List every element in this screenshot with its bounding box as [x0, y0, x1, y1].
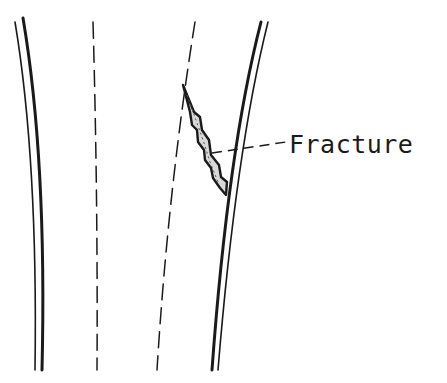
left-dashed-line: [93, 22, 97, 370]
diagram-canvas: Fracture: [0, 0, 447, 383]
fracture-leader-line: [212, 142, 286, 153]
right-dashed-line: [157, 22, 195, 370]
fracture-region: [183, 85, 227, 195]
fracture-label: Fracture: [289, 130, 413, 159]
bone-drawing: [0, 0, 447, 383]
